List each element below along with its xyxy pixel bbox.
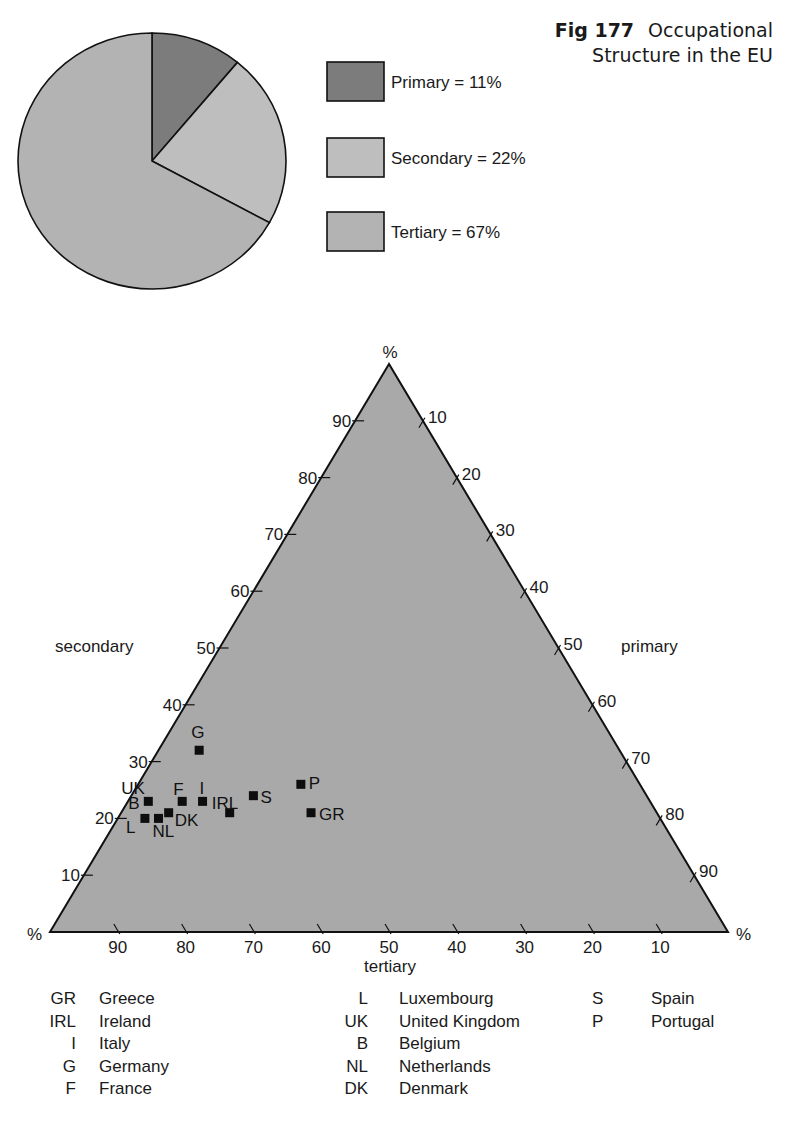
data-point-dk: [164, 808, 173, 817]
primary-tick-label: 50: [564, 635, 583, 654]
country-name: Belgium: [399, 1033, 460, 1056]
tertiary-axis-title: tertiary: [364, 957, 416, 976]
country-name: France: [99, 1078, 152, 1101]
country-abbr: UK: [326, 1011, 368, 1034]
primary-tick-label: 30: [496, 521, 515, 540]
country-legend-item: IRLIreland: [38, 1011, 169, 1034]
tertiary-tick-label: 40: [447, 938, 466, 957]
pie-chart: [18, 33, 286, 289]
legend-swatch-secondary: [327, 138, 384, 177]
point-label-l: L: [126, 818, 135, 837]
country-name: Portugal: [651, 1011, 714, 1034]
country-legend-item: FFrance: [38, 1078, 169, 1101]
data-point-g: [195, 746, 204, 755]
point-label-g: G: [191, 723, 204, 742]
country-legend-item: SSpain: [592, 988, 714, 1011]
country-abbr: IRL: [38, 1011, 76, 1034]
point-label-gr: GR: [319, 805, 345, 824]
legend-swatch-tertiary: [327, 212, 384, 251]
country-name: Luxembourg: [399, 988, 494, 1011]
country-legend-column: LLuxembourgUKUnited KingdomBBelgiumNLNet…: [326, 988, 520, 1101]
secondary-axis-title: secondary: [55, 637, 134, 656]
secondary-tick-label: 90: [332, 412, 351, 431]
country-legend-item: NLNetherlands: [326, 1056, 520, 1079]
country-abbr: G: [38, 1056, 76, 1079]
point-label-nl: NL: [152, 822, 174, 841]
country-abbr: NL: [326, 1056, 368, 1079]
country-legend-column: SSpainPPortugal: [592, 988, 714, 1033]
tertiary-tick-label: 10: [651, 938, 670, 957]
primary-tick-label: 70: [631, 749, 650, 768]
data-point-uk: [144, 797, 153, 806]
country-abbr: S: [592, 988, 614, 1011]
primary-tick-label: 90: [699, 862, 718, 881]
primary-tick-label: 80: [665, 805, 684, 824]
secondary-tick-label: 80: [298, 469, 317, 488]
data-point-s: [249, 791, 258, 800]
country-legend-column: GRGreeceIRLIrelandIItalyGGermanyFFrance: [38, 988, 169, 1101]
data-point-gr: [307, 808, 316, 817]
data-point-p: [296, 780, 305, 789]
tertiary-tick-label: 50: [380, 938, 399, 957]
country-abbr: F: [38, 1078, 76, 1101]
data-point-l: [140, 814, 149, 823]
country-legend-item: BBelgium: [326, 1033, 520, 1056]
primary-tick-label: 40: [530, 578, 549, 597]
secondary-tick-label: 70: [264, 525, 283, 544]
country-name: Ireland: [99, 1011, 151, 1034]
point-label-b: B: [128, 794, 139, 813]
country-legend-item: DKDenmark: [326, 1078, 520, 1101]
legend-label-primary: Primary = 11%: [391, 73, 502, 92]
tertiary-tick-label: 70: [244, 938, 263, 957]
legend-label-secondary: Secondary = 22%: [391, 149, 526, 168]
secondary-tick-label: 30: [129, 753, 148, 772]
figure-number: Fig 177: [555, 19, 634, 41]
secondary-tick-label: 10: [61, 866, 80, 885]
secondary-tick-label: 20: [95, 809, 114, 828]
figure-title: Fig 177Occupational Structure in the EU: [555, 18, 773, 68]
tertiary-tick-label: 80: [176, 938, 195, 957]
bottom-left-percent-label: %: [27, 925, 42, 944]
country-name: Greece: [99, 988, 155, 1011]
figure-title-line1: Fig 177Occupational: [555, 18, 773, 43]
country-legend-item: UKUnited Kingdom: [326, 1011, 520, 1034]
figure-title-line2: Structure in the EU: [555, 43, 773, 68]
country-abbr: B: [326, 1033, 368, 1056]
country-legend-item: GGermany: [38, 1056, 169, 1079]
legend-label-tertiary: Tertiary = 67%: [391, 223, 500, 242]
country-abbr: P: [592, 1011, 614, 1034]
tertiary-tick-label: 20: [583, 938, 602, 957]
bottom-right-percent-label: %: [736, 925, 751, 944]
primary-tick-label: 20: [462, 465, 481, 484]
country-legend-item: IItaly: [38, 1033, 169, 1056]
primary-tick-label: 60: [597, 692, 616, 711]
country-abbr: L: [326, 988, 368, 1011]
tertiary-tick-label: 60: [312, 938, 331, 957]
point-label-irl: IRL: [212, 794, 238, 813]
point-label-i: I: [200, 779, 205, 798]
ternary-chart: 1020304050607080901020304050607080909080…: [27, 343, 751, 976]
country-legend-item: GRGreece: [38, 988, 169, 1011]
country-abbr: GR: [38, 988, 76, 1011]
point-label-f: F: [173, 780, 183, 799]
country-name: Netherlands: [399, 1056, 491, 1079]
country-legend-item: PPortugal: [592, 1011, 714, 1034]
legend-swatch-primary: [327, 62, 384, 101]
tertiary-tick-label: 30: [515, 938, 534, 957]
apex-percent-label: %: [382, 343, 397, 362]
point-label-dk: DK: [175, 811, 199, 830]
tertiary-tick-label: 90: [108, 938, 127, 957]
point-label-p: P: [309, 774, 320, 793]
country-abbr: DK: [326, 1078, 368, 1101]
secondary-tick-label: 60: [230, 582, 249, 601]
primary-tick-label: 10: [428, 408, 447, 427]
country-name: Italy: [99, 1033, 130, 1056]
country-name: Denmark: [399, 1078, 468, 1101]
secondary-tick-label: 40: [163, 696, 182, 715]
country-name: Spain: [651, 988, 694, 1011]
secondary-tick-label: 50: [197, 639, 216, 658]
country-legend-item: LLuxembourg: [326, 988, 520, 1011]
country-name: Germany: [99, 1056, 169, 1079]
primary-axis-title: primary: [621, 637, 678, 656]
country-abbr: I: [38, 1033, 76, 1056]
